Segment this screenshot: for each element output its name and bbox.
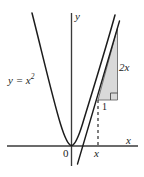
rise-label: 2x	[119, 62, 129, 73]
curve-equation-exponent: 2	[31, 72, 35, 81]
math-figure: y = x2 y x 0 1 2x x	[0, 0, 144, 177]
x-tick-label: x	[94, 148, 99, 159]
origin-label: 0	[63, 148, 69, 159]
curve-equation-text: y = x	[8, 74, 31, 86]
curve-equation-label: y = x2	[8, 73, 34, 86]
y-axis-label: y	[75, 11, 80, 22]
run-label: 1	[102, 102, 107, 112]
x-axis-label: x	[126, 135, 131, 146]
figure-graphics	[0, 0, 144, 177]
